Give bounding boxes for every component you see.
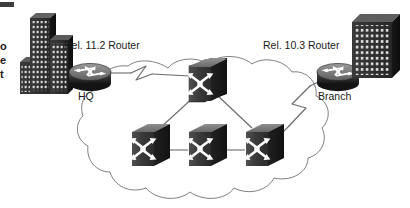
hq-router-icon xyxy=(69,63,111,91)
switch-left-icon xyxy=(130,124,170,166)
edge-text-fragment-t: t xyxy=(0,68,4,80)
hq-building-icon xyxy=(20,13,73,94)
branch-building-icon xyxy=(352,14,400,78)
edge-text-fragment-o: o xyxy=(0,40,7,52)
edge-text-fragment-e: e xyxy=(0,54,6,66)
branch-router-release-label: Rel. 10.3 Router xyxy=(263,39,339,51)
hq-router-release-label: Rel. 11.2 Router xyxy=(64,39,140,51)
hq-site-label: HQ xyxy=(78,90,94,102)
diagram-canvas: Rel. 11.2 Router HQ Rel. 10.3 Router Bra… xyxy=(0,0,410,208)
topology-svg xyxy=(0,0,410,208)
switch-right-icon xyxy=(244,124,284,166)
switch-center-icon xyxy=(187,124,227,166)
branch-site-label: Branch xyxy=(318,90,351,102)
